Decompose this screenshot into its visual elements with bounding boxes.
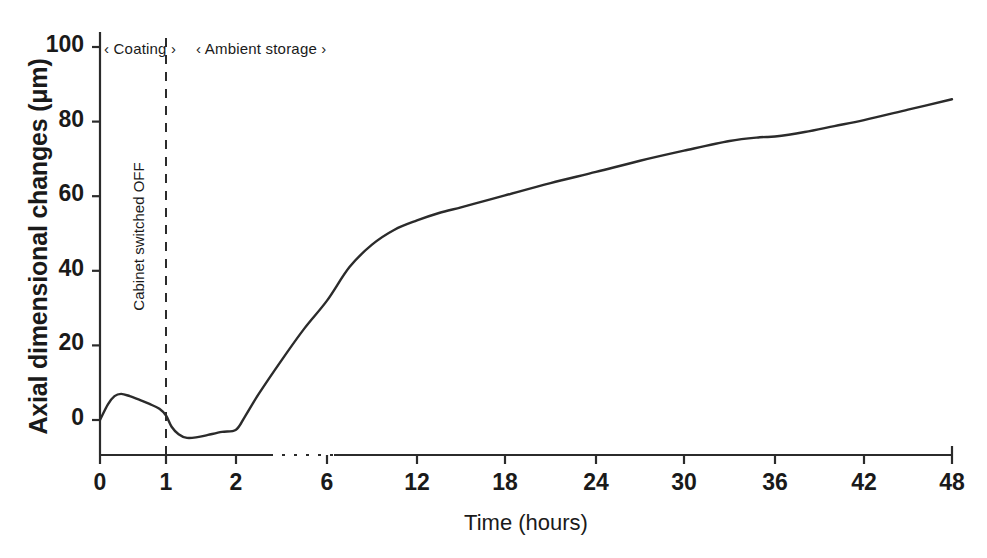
axis-lines-group [92, 32, 952, 464]
x-tick-label: 1 [144, 469, 188, 496]
x-tick-label: 18 [483, 469, 527, 496]
x-tick-label: 6 [305, 469, 349, 496]
x-tick-label: 12 [395, 469, 439, 496]
y-tick-label: 100 [26, 31, 84, 58]
y-tick-label: 40 [26, 255, 84, 282]
cabinet-switched-off-label: Cabinet switched OFF [130, 87, 147, 387]
x-tick-label: 42 [842, 469, 886, 496]
chart-figure: Axial dimensional changes (μm) Time (hou… [0, 0, 987, 558]
x-tick-label: 30 [662, 469, 706, 496]
y-axis-title: Axial dimensional changes (μm) [24, 37, 53, 457]
y-tick-label: 20 [26, 329, 84, 356]
x-tick-label: 48 [930, 469, 974, 496]
y-tick-label: 60 [26, 180, 84, 207]
y-tick-label: 80 [26, 106, 84, 133]
x-tick-label: 2 [214, 469, 258, 496]
x-tick-label: 0 [78, 469, 122, 496]
x-axis-title: Time (hours) [100, 510, 952, 536]
phase-label-ambient-storage: ‹ Ambient storage › [196, 40, 327, 57]
data-curve-group [100, 99, 952, 438]
phase-label-coating: ‹ Coating › [104, 40, 176, 57]
x-tick-label: 24 [574, 469, 618, 496]
x-tick-label: 36 [753, 469, 797, 496]
y-tick-label: 0 [26, 404, 84, 431]
